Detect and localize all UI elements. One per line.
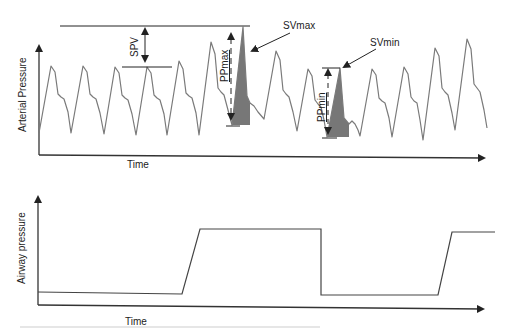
arterial-waveform xyxy=(39,27,487,140)
bottom-x-axis xyxy=(38,305,483,309)
sv-max-pointer-arrow xyxy=(252,33,290,51)
top-x-axis xyxy=(39,155,484,158)
sv-min-label: SVmin xyxy=(370,37,399,48)
bottom-y-axis-label: Airway pressure xyxy=(16,212,27,284)
spv-label: SPV xyxy=(129,37,140,57)
pp-max-label: PPmax xyxy=(219,50,230,82)
airway-pressure-waveform xyxy=(38,229,495,295)
bottom-divider xyxy=(20,326,320,328)
top-x-axis-label: Time xyxy=(127,159,149,170)
sv-max-label: SVmax xyxy=(283,20,315,31)
airway-pressure-chart: Airway pressure Time xyxy=(16,197,495,327)
arterial-pressure-chart: Arterial Pressure Time SPV PPmax SVmax P… xyxy=(17,20,487,170)
sv-min-pointer-arrow xyxy=(344,49,376,67)
top-y-axis-label: Arterial Pressure xyxy=(17,57,28,132)
pp-min-label: PPmin xyxy=(316,93,327,122)
